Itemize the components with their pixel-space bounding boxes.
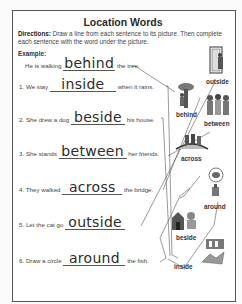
sentence-prefix: They walked [26, 186, 61, 193]
picture-label-inside: inside [174, 263, 192, 270]
sentence-4: 4. They walked across the bridge. [19, 181, 153, 195]
answer-blank[interactable]: outside [65, 216, 125, 230]
dog-beside-house-icon [171, 210, 199, 232]
sentence-suffix: his house. [127, 116, 155, 123]
sentence-5: 5. Let the cat go outside [19, 216, 125, 230]
sentence-number: 1. [19, 83, 24, 90]
answer-blank[interactable]: around [63, 252, 125, 266]
picture-label-behind: behind [176, 111, 197, 118]
sentence-2: 2. She drew a dog beside his house. [19, 111, 155, 125]
sentence-prefix: She stands [26, 150, 57, 157]
sentence-prefix: We stay [26, 83, 48, 90]
sentence-prefix: Let the cat go [26, 221, 64, 228]
answer-blank[interactable]: beside [71, 111, 125, 125]
sentence-suffix: the bridge. [124, 186, 153, 193]
fish-bowl-icon [205, 167, 227, 199]
sentence-number: 5. [19, 221, 24, 228]
person-behind-tree-icon [177, 82, 195, 110]
picture-label-between: between [204, 120, 230, 127]
sentence-suffix: her friends. [128, 150, 159, 157]
answer-blank[interactable]: inside [50, 78, 116, 92]
sentence-number: 2. [19, 116, 24, 123]
picture-label-around: around [204, 203, 226, 210]
example-label: Example: [18, 50, 46, 57]
sentence-number: 3. [19, 150, 24, 157]
sentence-prefix: She drew a dog [26, 116, 69, 123]
sentence-number: 4. [19, 186, 24, 193]
person-at-door-icon [208, 46, 226, 74]
sentence-suffix: the tree. [117, 62, 140, 69]
answer-blank[interactable]: behind [63, 57, 115, 71]
sentence-number: 6. [19, 257, 24, 264]
girl-between-friends-icon [205, 93, 231, 117]
picture-label-across: across [181, 155, 202, 162]
sentence-suffix: the fish. [127, 257, 149, 264]
sentence-6: 6. Draw a circle around the fish. [19, 252, 149, 266]
directions: Directions: Draw a line from each senten… [18, 30, 226, 46]
people-crossing-bridge-icon [175, 133, 209, 153]
picture-label-outside: outside [206, 78, 229, 85]
worksheet-title: Location Words [12, 16, 234, 28]
picture-label-beside: beside [176, 234, 196, 241]
sentence-1: 1. We stay inside when it rains. [19, 78, 154, 92]
answer-blank[interactable]: across [62, 181, 122, 195]
sentence-3: 3. She stands between her friends. [19, 145, 159, 159]
sentence-suffix: when it rains. [118, 83, 154, 90]
kids-inside-house-icon [200, 238, 226, 266]
sentence-prefix: Draw a circle [26, 257, 62, 264]
directions-label: Directions: [18, 30, 51, 37]
example-sentence: He is walking behind the tree. [25, 57, 140, 71]
sentence-prefix: He is walking [25, 62, 61, 69]
answer-blank[interactable]: between [59, 145, 127, 159]
